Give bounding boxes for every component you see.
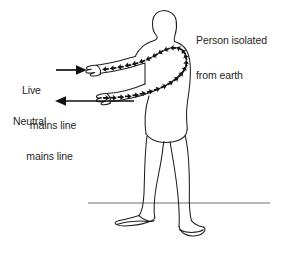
label-neutral-line1: Neutral (13, 116, 86, 128)
label-person-isolated-line1: Person isolated (196, 35, 267, 47)
label-person-isolated-line2: from earth (196, 70, 267, 82)
label-person-isolated: Person isolated from earth (196, 12, 267, 104)
person-outline-icon (86, 11, 205, 237)
diagram-canvas: Person isolated from earth Live mains li… (0, 0, 282, 254)
label-neutral-line2: mains line (13, 151, 86, 163)
label-neutral-mains-line: Neutral mains line (13, 93, 86, 185)
